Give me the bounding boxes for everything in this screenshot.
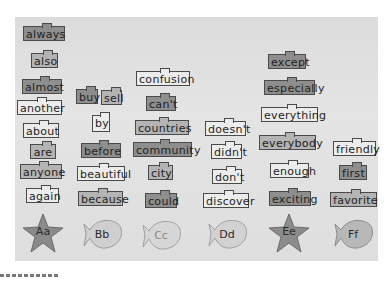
word-card-almost: almost: [22, 79, 62, 94]
word-card-especially: especially: [264, 80, 315, 95]
word-card-doesnt: doesn't: [205, 121, 246, 136]
word-card-also: also: [31, 53, 58, 68]
word-card-again: again: [26, 188, 59, 203]
letter-star-ee: Ee: [267, 213, 311, 249]
word-card-city: city: [148, 165, 173, 180]
word-card-friendly: friendly: [333, 141, 376, 156]
word-card-could: could: [145, 193, 177, 208]
word-card-dont: don't: [212, 169, 242, 184]
word-card-exciting: exciting: [269, 191, 311, 206]
word-card-about: about: [23, 123, 59, 138]
word-card-cant: can't: [146, 96, 176, 111]
word-card-community: community: [133, 142, 192, 157]
word-wall-board: always also almost another about are any…: [15, 17, 378, 261]
letter-label: Cc: [154, 229, 168, 242]
word-card-sell: sell: [101, 90, 122, 105]
word-card-before: before: [81, 143, 121, 158]
letter-fish-bb: Bb: [80, 216, 124, 252]
letter-label: Bb: [95, 228, 110, 241]
word-card-anyone: anyone: [20, 164, 62, 179]
word-card-because: because: [78, 191, 123, 206]
word-card-except: except: [268, 54, 306, 69]
letter-fish-dd: Dd: [205, 216, 249, 252]
letter-label: Ee: [282, 225, 296, 238]
word-card-enough: enough: [270, 163, 309, 178]
letter-fish-cc: Cc: [139, 217, 183, 253]
letter-label: Aa: [36, 225, 50, 238]
word-card-buy: buy: [76, 89, 98, 104]
word-card-another: another: [17, 100, 62, 115]
word-card-everything: everything: [261, 107, 318, 122]
word-card-discover: discover: [203, 193, 249, 208]
word-card-favorite: favorite: [330, 192, 377, 207]
word-card-beautiful: beautiful: [77, 166, 125, 181]
letter-label: Ff: [348, 228, 358, 241]
word-card-didnt: didn't: [211, 144, 242, 159]
word-card-always: always: [23, 26, 65, 41]
word-card-everybody: everybody: [259, 135, 316, 150]
word-card-countries: countries: [135, 120, 189, 135]
word-card-first: first: [339, 165, 367, 180]
word-card-by: by: [92, 115, 110, 132]
letter-fish-ff: Ff: [331, 216, 375, 252]
letter-label: Dd: [219, 228, 234, 241]
word-card-are: are: [30, 144, 56, 159]
cropped-caption-text: [0, 274, 60, 277]
word-card-confusion: confusion: [136, 71, 190, 86]
letter-star-aa: Aa: [21, 213, 65, 249]
